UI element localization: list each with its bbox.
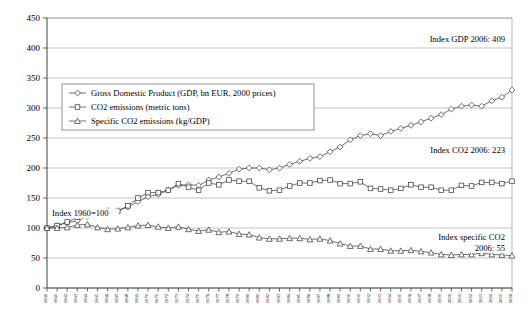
x-tick-label: 1968 bbox=[124, 293, 129, 303]
x-tick-label: 1980 bbox=[245, 293, 250, 303]
marker-square bbox=[318, 178, 323, 183]
marker-square bbox=[388, 188, 393, 193]
marker-square bbox=[328, 178, 333, 183]
marker-square bbox=[287, 184, 292, 189]
legend-label: CO2 emissions (metric tons) bbox=[91, 102, 190, 112]
x-tick-label: 1992 bbox=[366, 293, 371, 303]
marker-square bbox=[65, 220, 70, 225]
x-tick-label: 1971 bbox=[154, 293, 159, 303]
x-tick-label: 2002 bbox=[468, 293, 473, 303]
chart-container: 050100150200250300350400450 196019611962… bbox=[0, 0, 527, 329]
x-tick-label: 1972 bbox=[164, 293, 169, 303]
annotation-text: Index CO2 2006: 223 bbox=[430, 145, 505, 155]
baseline-annotation: Index 1960=100 bbox=[49, 208, 119, 219]
marker-square bbox=[166, 188, 171, 193]
y-tick-label: 50 bbox=[31, 253, 41, 263]
x-tick-label: 1976 bbox=[205, 293, 210, 303]
x-tick-label: 1988 bbox=[326, 293, 331, 303]
x-tick-label: 1964 bbox=[83, 293, 88, 303]
marker-square bbox=[409, 183, 414, 188]
x-tick-label: 1994 bbox=[387, 293, 392, 303]
marker-square bbox=[156, 190, 161, 195]
x-tick-label: 1984 bbox=[286, 293, 291, 303]
x-tick-label: 2000 bbox=[447, 293, 452, 303]
index-line-chart: 050100150200250300350400450 196019611962… bbox=[0, 0, 527, 329]
marker-square bbox=[500, 181, 505, 186]
marker-square bbox=[459, 183, 464, 188]
x-tick-label: 1960 bbox=[43, 293, 48, 303]
marker-square bbox=[399, 186, 404, 191]
x-tick-label: 1973 bbox=[174, 293, 179, 303]
x-tick-label: 1977 bbox=[215, 293, 220, 303]
x-tick-label: 1966 bbox=[104, 293, 109, 303]
y-tick-label: 200 bbox=[27, 163, 41, 173]
x-tick-label: 1995 bbox=[397, 293, 402, 303]
marker-square bbox=[378, 187, 383, 192]
x-tick-label: 1981 bbox=[255, 293, 260, 303]
marker-square bbox=[510, 179, 515, 184]
annotation-text: Index specific CO2 bbox=[438, 232, 505, 242]
marker-square bbox=[449, 188, 454, 193]
x-tick-label: 1975 bbox=[195, 293, 200, 303]
y-tick-label: 300 bbox=[27, 103, 41, 113]
x-tick-label: 1978 bbox=[225, 293, 230, 303]
x-tick-label: 1985 bbox=[296, 293, 301, 303]
x-tick-label: 1991 bbox=[356, 293, 361, 303]
marker-square bbox=[348, 181, 353, 186]
marker-square bbox=[297, 181, 302, 186]
y-tick-label: 400 bbox=[27, 43, 41, 53]
annotation-text: 2006: 55 bbox=[475, 243, 505, 253]
marker-square bbox=[75, 105, 80, 110]
marker-square bbox=[277, 188, 282, 193]
x-tick-label: 2005 bbox=[498, 293, 503, 303]
y-tick-label: 450 bbox=[27, 13, 41, 23]
marker-square bbox=[217, 183, 222, 188]
marker-square bbox=[368, 186, 373, 191]
x-tick-label: 1990 bbox=[346, 293, 351, 303]
marker-square bbox=[126, 204, 131, 209]
chart-background bbox=[0, 0, 527, 329]
chart-legend: Gross Domestic Product (GDP, bn EUR, 200… bbox=[62, 84, 314, 130]
x-tick-label: 2003 bbox=[478, 293, 483, 303]
marker-square bbox=[469, 184, 474, 189]
marker-square bbox=[206, 181, 211, 186]
x-tick-label: 1997 bbox=[417, 293, 422, 303]
x-tick-label: 1989 bbox=[336, 293, 341, 303]
x-tick-label: 1987 bbox=[316, 293, 321, 303]
marker-square bbox=[439, 188, 444, 193]
x-tick-label: 1967 bbox=[114, 293, 119, 303]
marker-square bbox=[257, 186, 262, 191]
y-tick-label: 250 bbox=[27, 133, 41, 143]
x-tick-label: 2001 bbox=[457, 293, 462, 303]
x-tick-label: 1993 bbox=[377, 293, 382, 303]
x-tick-label: 1963 bbox=[73, 293, 78, 303]
marker-square bbox=[489, 180, 494, 185]
x-tick-label: 1986 bbox=[306, 293, 311, 303]
marker-square bbox=[136, 196, 141, 201]
marker-square bbox=[227, 178, 232, 183]
x-tick-label: 1979 bbox=[235, 293, 240, 303]
x-tick-label: 2006 bbox=[508, 293, 513, 303]
marker-square bbox=[176, 181, 181, 186]
legend-label: Gross Domestic Product (GDP, bn EUR, 200… bbox=[91, 88, 276, 98]
x-tick-label: 1962 bbox=[63, 293, 68, 303]
marker-square bbox=[267, 189, 272, 194]
marker-square bbox=[429, 185, 434, 190]
marker-square bbox=[479, 180, 484, 185]
x-tick-label: 1999 bbox=[437, 293, 442, 303]
x-tick-label: 1961 bbox=[53, 293, 58, 303]
legend-label: Specific CO2 emissions (kg/GDP) bbox=[91, 116, 210, 126]
annotation-text: Index 1960=100 bbox=[52, 208, 109, 218]
x-tick-label: 1983 bbox=[276, 293, 281, 303]
y-tick-label: 350 bbox=[27, 73, 41, 83]
marker-square bbox=[338, 181, 343, 186]
marker-square bbox=[237, 179, 242, 184]
marker-square bbox=[419, 185, 424, 190]
x-tick-label: 2004 bbox=[488, 293, 493, 303]
marker-square bbox=[146, 190, 151, 195]
marker-square bbox=[186, 185, 191, 190]
marker-square bbox=[196, 188, 201, 193]
y-tick-label: 100 bbox=[27, 223, 41, 233]
x-tick-label: 1998 bbox=[427, 293, 432, 303]
legend-item-1: Gross Domestic Product (GDP, bn EUR, 200… bbox=[69, 88, 276, 98]
